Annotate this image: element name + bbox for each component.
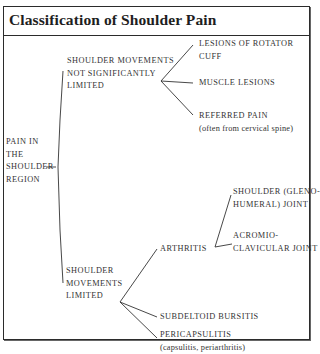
node-root-line: PAIN IN	[6, 136, 54, 149]
node-referred-pain: REFERRED PAIN (often from cervical spine…	[199, 110, 293, 135]
node-line: CLAVICULAR JOINT	[233, 243, 318, 256]
node-line: HUMERAL) JOINT	[233, 199, 320, 212]
connector-arthritis	[120, 249, 157, 302]
node-line: NOT SIGNIFICANTLY	[67, 68, 174, 81]
node-glenohumeral-joint: SHOULDER (GLENO- HUMERAL) JOINT	[233, 186, 320, 211]
node-line: LIMITED	[66, 290, 123, 303]
connector-acromioclavicular	[215, 244, 232, 247]
connector-pericapsulitis	[120, 302, 157, 338]
node-line: ACROMIO-	[233, 230, 318, 243]
node-line: SUBDELTOID BURSITIS	[160, 311, 259, 324]
node-movements-not-limited: SHOULDER MOVEMENTS NOT SIGNIFICANTLY LIM…	[67, 55, 174, 93]
connector-glenohumeral	[215, 195, 231, 247]
node-line: CUFF	[199, 51, 293, 64]
node-root-line: THE	[6, 149, 54, 162]
node-line: MUSCLE LESIONS	[199, 77, 275, 90]
node-line: LIMITED	[67, 80, 174, 93]
node-note: (capsulitis, periarthritis)	[160, 342, 245, 354]
node-root: PAIN IN THE SHOULDER REGION	[6, 136, 54, 186]
node-movements-limited: SHOULDER MOVEMENTS LIMITED	[66, 265, 123, 303]
connector-subdeltoid	[120, 302, 157, 317]
node-line: PERICAPSULITIS	[160, 329, 245, 342]
node-line: ARTHRITIS	[160, 243, 207, 256]
node-line: SHOULDER	[66, 265, 123, 278]
node-line: SHOULDER (GLENO-	[233, 186, 320, 199]
node-line: SHOULDER MOVEMENTS	[67, 55, 174, 68]
node-root-line: SHOULDER	[6, 161, 54, 174]
node-pericapsulitis: PERICAPSULITIS (capsulitis, periarthriti…	[160, 329, 245, 354]
node-muscle-lesions: MUSCLE LESIONS	[199, 77, 275, 90]
node-acromioclavicular-joint: ACROMIO- CLAVICULAR JOINT	[233, 230, 318, 255]
node-note: (often from cervical spine)	[199, 123, 293, 136]
main-brace	[58, 71, 63, 283]
node-subdeltoid-bursitis: SUBDELTOID BURSITIS	[160, 311, 259, 324]
node-line: LESIONS OF ROTATOR	[199, 38, 293, 51]
node-arthritis: ARTHRITIS	[160, 243, 207, 256]
node-line: MOVEMENTS	[66, 278, 123, 291]
node-root-line: REGION	[6, 174, 54, 187]
node-lesions-rotator-cuff: LESIONS OF ROTATOR CUFF	[199, 38, 293, 63]
node-line: REFERRED PAIN	[199, 110, 293, 123]
